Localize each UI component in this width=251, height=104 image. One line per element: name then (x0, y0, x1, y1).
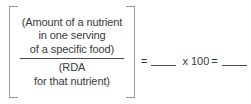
denominator-line-1: (RDA (18, 61, 126, 75)
equals-sign-second: = (211, 55, 217, 68)
right-square-bracket-icon (126, 6, 135, 98)
numerator-line-1: (Amount of a nutrient (18, 16, 126, 30)
fraction-denominator: (RDA for that nutrient) (18, 60, 126, 88)
percent-rda-formula-figure: (Amount of a nutrient in one serving of … (0, 0, 251, 104)
bracketed-fraction-group: (Amount of a nutrient in one serving of … (9, 6, 135, 98)
denominator-line-2: for that nutrient) (18, 75, 126, 89)
equals-sign-first: = (141, 55, 147, 68)
blank-quotient-field[interactable] (151, 65, 176, 66)
numerator-line-2: in one serving (18, 29, 126, 43)
equation-right-side: = x 100 = % (140, 50, 251, 72)
fraction-bar (20, 58, 124, 59)
fraction: (Amount of a nutrient in one serving of … (18, 6, 126, 98)
multiplication-sign: x (182, 55, 188, 68)
numerator-line-3: of a specific food) (18, 43, 126, 57)
fraction-numerator: (Amount of a nutrient in one serving of … (18, 16, 126, 58)
multiplier-value: 100 (191, 55, 209, 68)
blank-result-field[interactable] (222, 65, 247, 66)
left-square-bracket-icon (9, 6, 18, 98)
